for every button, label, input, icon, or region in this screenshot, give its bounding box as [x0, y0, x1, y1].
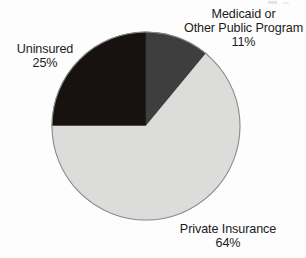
pie-label-private-insurance-percent: 64%	[166, 236, 290, 250]
pie-label-medicaid-line2: Other Public Program	[184, 21, 303, 35]
pie-label-private-insurance-line1: Private Insurance	[180, 222, 276, 236]
pie-label-medicaid-percent: 11%	[183, 35, 304, 49]
pie-label-private-insurance: Private Insurance 64%	[166, 222, 290, 250]
pie-chart-figure: Medicaid or Other Public Program 11% Uni…	[0, 0, 306, 258]
pie-label-uninsured-line1: Uninsured	[17, 42, 74, 56]
pie-label-uninsured: Uninsured 25%	[4, 42, 86, 70]
pie-label-medicaid-line1: Medicaid or	[212, 7, 276, 21]
pie-label-medicaid: Medicaid or Other Public Program 11%	[183, 7, 304, 50]
pie-label-uninsured-percent: 25%	[4, 56, 86, 70]
